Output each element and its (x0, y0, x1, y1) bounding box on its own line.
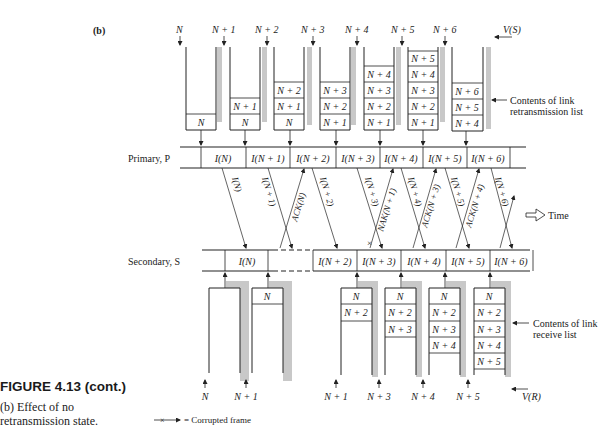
vs-label: N + 1 (211, 24, 235, 35)
retrans-list-3: N + 2 N + 1 N (274, 47, 312, 130)
legend: × = Corrupted frame (154, 415, 251, 425)
message-arrows: × I(N) I(N + 1) I(N + 2) I(N + 3) I(N + … (222, 168, 514, 248)
retrans-list-6: N + 5 N + 4 N + 3 N + 2 N + 1 (408, 47, 445, 130)
primary-timeline: Primary, P I(N) I(N + 1) I(N + 2) I(N + … (128, 147, 526, 168)
primary-frame: I(N + 6) (470, 153, 505, 165)
receive-list-6: N N + 2 N + 3 N + 4 N + 5 (474, 281, 511, 384)
receive-annotation-line1: Contents of link (533, 318, 597, 329)
panel-label: (b) (93, 25, 105, 37)
receive-annotation-line2: receive list (533, 329, 577, 340)
caption-line-1: (b) Effect of no (0, 400, 110, 414)
msg-label: I(N + 2) (318, 175, 336, 208)
msg-label: I(N + 5) (449, 175, 467, 208)
retrans-list-2: N + 1 N (230, 47, 267, 130)
vs-label: N + 2 (254, 24, 278, 35)
retrans-annotation-line1: Contents of link (510, 95, 574, 106)
msg-label: I(N) (230, 175, 244, 193)
msg-label: ACK(N + 3) (419, 183, 442, 230)
primary-frame: I(N + 4) (383, 153, 418, 165)
retrans-list-5: N + 4 N + 3 N + 2 N + 1 (364, 47, 401, 130)
receive-list-3: N N + 2 (341, 281, 378, 384)
secondary-frame: I(N + 2) (317, 256, 352, 268)
vr-pointer-label: V(R) (522, 391, 542, 403)
list-cell: N + 2 (476, 307, 500, 318)
list-cell: N + 4 (431, 340, 455, 351)
vr-label: N + 3 (366, 391, 390, 402)
retrans-list-1: N (186, 47, 222, 130)
vs-label: N + 3 (300, 24, 324, 35)
vs-label: N + 4 (344, 24, 368, 35)
list-cell: N + 5 (454, 102, 478, 113)
list-cell: N + 2 (410, 101, 434, 112)
retrans-list-4: N + 3 N + 2 N + 1 (320, 47, 356, 130)
list-cell: N + 3 (322, 85, 346, 96)
list-cell: N + 2 (387, 307, 411, 318)
legend-label: = Corrupted frame (184, 415, 251, 425)
list-cell: N + 3 (476, 324, 500, 335)
list-cell: N + 5 (476, 356, 500, 367)
list-cell: N + 4 (454, 118, 478, 129)
vs-labels: N N + 1 N + 2 N + 3 N + 4 N + 5 N + 6 V(… (175, 24, 521, 45)
msg-label: I(N + 4) (406, 175, 424, 208)
arq-timing-diagram: (b) N N + 1 N + 2 N + 3 N + 4 N + 5 N + … (0, 0, 608, 441)
primary-label: Primary, P (128, 153, 171, 164)
receive-list-5: N N + 2 N + 3 N + 4 (429, 281, 466, 384)
list-cell: N (485, 291, 494, 302)
list-cell: N + 4 (476, 340, 500, 351)
list-cell: N + 1 (410, 117, 434, 128)
msg-label: ACK(N + 4) (463, 183, 486, 230)
list-cell: N + 6 (454, 86, 478, 97)
primary-frame: I(N + 1) (250, 153, 285, 165)
vs-label: N (175, 24, 184, 35)
list-cell: N (352, 291, 361, 302)
vs-label: N + 6 (432, 24, 456, 35)
list-cell: N (263, 291, 272, 302)
receive-list-1 (209, 281, 249, 384)
msg-label: I(N + 6) (493, 175, 511, 208)
list-cell: N + 1 (276, 101, 300, 112)
time-arrow-icon (526, 209, 545, 221)
list-cell: N + 2 (322, 101, 346, 112)
time-label: Time (548, 210, 569, 221)
primary-frame: I(N + 5) (427, 153, 462, 165)
corrupted-x-icon: × (367, 238, 372, 248)
retransmission-lists: N N + 1 N + 2 N + 3 N + 4 N + 5 N + 6 V(… (175, 24, 583, 145)
list-cell: N + 5 (410, 53, 434, 64)
figure-caption-title: FIGURE 4.13 (cont.) (0, 379, 126, 394)
primary-frame: I(N + 2) (295, 153, 330, 165)
list-cell: N + 1 (366, 117, 390, 128)
vr-label: N + 1 (323, 391, 347, 402)
caption-line-2: retransmission state. (0, 414, 110, 428)
list-cell: N + 1 (232, 101, 256, 112)
time-indicator: Time (526, 209, 569, 221)
receive-lists: N N N + 2 N N + 2 N + 3 (201, 273, 598, 403)
msg-label: I(N + 3) (363, 175, 381, 208)
list-cell: N (440, 291, 449, 302)
list-cell: N + 3 (387, 324, 411, 335)
secondary-frame: I(N + 6) (493, 256, 528, 268)
primary-frame: I(N) (214, 153, 232, 165)
list-cell: N + 1 (322, 117, 346, 128)
receive-list-2: N (252, 281, 292, 384)
list-cell: N + 2 (276, 85, 300, 96)
list-cell: N + 4 (366, 69, 390, 80)
list-cell: N + 3 (366, 85, 390, 96)
corrupted-x-icon: × (160, 416, 165, 425)
secondary-frame: I(N + 4) (406, 256, 441, 268)
primary-frame: I(N + 3) (340, 153, 375, 165)
msg-label: ACK(N) (289, 191, 307, 223)
list-cell: N + 2 (431, 307, 455, 318)
secondary-label: Secondary, S (128, 256, 180, 267)
figure-caption-text: (b) Effect of no retransmission state. (0, 400, 110, 428)
retrans-list-7: N + 6 N + 5 N + 4 (452, 47, 491, 131)
receive-list-4: N N + 2 N + 3 (385, 281, 422, 384)
secondary-timeline: Secondary, S I(N) I(N + 2) I(N + 3) I(N … (128, 250, 533, 271)
list-cell: N (241, 117, 250, 128)
retrans-annotation-line2: retransmission list (510, 106, 583, 117)
list-cell: N + 3 (410, 85, 434, 96)
secondary-frame: I(N + 5) (450, 256, 485, 268)
vr-label: N (201, 391, 210, 402)
list-cell: N (285, 117, 294, 128)
list-cell: N + 2 (343, 307, 367, 318)
list-cell: N + 4 (410, 69, 434, 80)
